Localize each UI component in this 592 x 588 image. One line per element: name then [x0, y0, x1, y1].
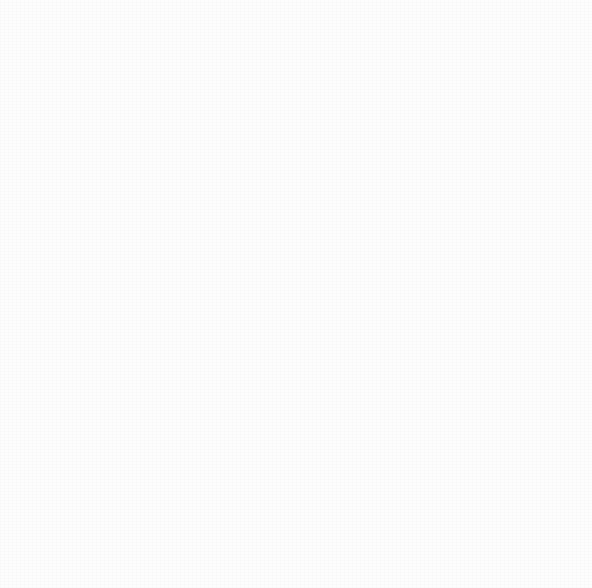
leader-line-spain — [148, 442, 253, 483]
pie-label-denmark: Denmark — [32, 177, 104, 199]
pie-label-spain: Spain — [62, 468, 106, 490]
pie-label-india: India — [26, 398, 66, 420]
pie-label-italy: Italy — [48, 285, 84, 307]
pie-label-rest-of-world: Rest of the world — [70, 79, 205, 101]
leader-line-germany — [287, 453, 312, 534]
scan-speck — [566, 211, 572, 215]
pie-label-pr-china: PR China — [481, 79, 556, 101]
scan-speck — [505, 221, 509, 224]
leader-line-france — [106, 262, 173, 271]
leader-line-uk — [91, 334, 171, 338]
pie-label-canada: Canada — [33, 212, 91, 234]
leader-line-usa — [413, 438, 516, 540]
leader-line-pr-china — [406, 101, 477, 172]
pie-label-france: France — [33, 246, 86, 268]
chart-title-banner: Top 10 Cumulative Capacity Dec 2013 — [63, 31, 547, 64]
pie-label-uk: UK — [49, 324, 77, 346]
leader-line-canada — [112, 229, 180, 250]
pie-label-germany: Germany — [20, 519, 92, 541]
leader-line-rest — [190, 102, 228, 183]
pie-slices — [168, 181, 442, 455]
leader-line-denmark — [124, 196, 187, 229]
pie-label-usa: USA — [520, 528, 559, 550]
chart-title: Top 10 Cumulative Capacity Dec 2013 — [141, 37, 470, 59]
